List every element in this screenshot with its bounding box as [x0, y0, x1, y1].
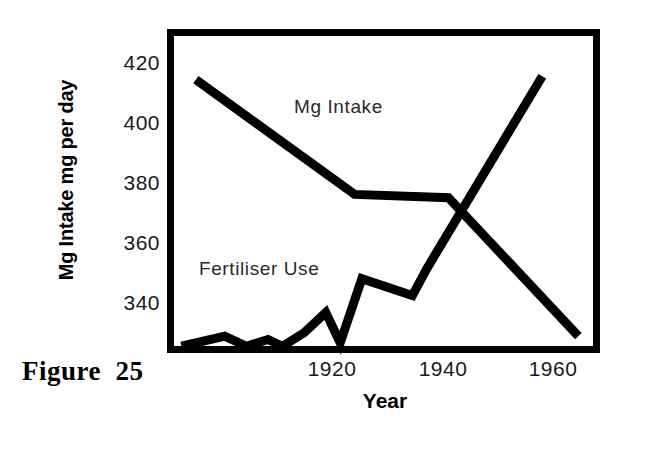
y-tick-label-340: 340 — [104, 292, 160, 313]
x-tick-label-1920: 1920 — [292, 358, 372, 380]
figure-container: Mg Intake mg per day 420 400 380 360 340… — [0, 0, 646, 451]
figure-caption: Figure 25 — [22, 356, 144, 386]
y-axis-tick-group: 420 400 380 360 340 — [102, 0, 160, 360]
y-tick-label-420: 420 — [104, 52, 160, 73]
series-label-mg-intake: Mg Intake — [294, 97, 383, 117]
y-axis-title: Mg Intake mg per day — [56, 75, 76, 285]
y-tick-label-380: 380 — [104, 172, 160, 193]
y-tick-label-360: 360 — [104, 232, 160, 253]
x-axis-title: Year — [320, 390, 450, 412]
y-tick-label-400: 400 — [104, 112, 160, 133]
x-tick-label-1940: 1940 — [403, 358, 483, 380]
series-label-fertiliser-use: Fertiliser Use — [199, 259, 319, 279]
plot-area — [167, 29, 600, 353]
x-tick-label-1960: 1960 — [513, 358, 593, 380]
